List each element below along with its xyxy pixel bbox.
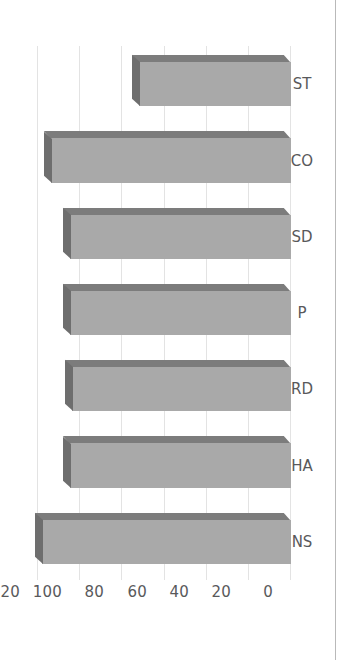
bar-ha [38, 443, 291, 487]
category-label-p: P [264, 304, 340, 322]
category-label-ns: NS [264, 533, 340, 551]
bar-top-face [63, 436, 71, 487]
bar-top-face [63, 284, 71, 335]
bar-front-face [70, 443, 291, 487]
value-tick-label: 40 [169, 583, 189, 601]
bar-top-face [35, 513, 43, 564]
bar-front-face [42, 520, 291, 564]
bar-top-face [44, 131, 52, 182]
category-label-ha: HA [264, 457, 340, 475]
bar-front-face [72, 367, 291, 411]
bar-top-face [132, 55, 140, 106]
value-tick-label: 120 [0, 583, 20, 601]
bar-st [38, 62, 291, 106]
bar-ns [38, 520, 291, 564]
plot-area [38, 46, 291, 580]
bar-co [38, 138, 291, 182]
value-tick-label: 60 [127, 583, 147, 601]
value-tick-label: 100 [33, 583, 62, 601]
bar-front-face [70, 215, 291, 259]
bar-top-face [63, 207, 71, 258]
bar-series [38, 46, 291, 580]
category-label-co: CO [264, 151, 340, 169]
category-label-st: ST [264, 75, 340, 93]
bar-rd [38, 367, 291, 411]
value-tick-label: 0 [263, 583, 273, 601]
value-axis-tick-labels: 020406080100120 [38, 584, 291, 640]
chart-stage: 020406080100120 NSHARDPSDCOST [22, 20, 322, 640]
bar-front-face [70, 291, 291, 335]
category-axis-tick-labels: NSHARDPSDCOST [291, 46, 321, 580]
category-label-sd: SD [264, 228, 340, 246]
bar-front-face [51, 138, 291, 182]
value-tick-label: 20 [211, 583, 231, 601]
category-label-rd: RD [264, 380, 340, 398]
figure-right-border [335, 0, 336, 660]
bar-top-face [65, 360, 73, 411]
value-tick-label: 80 [85, 583, 105, 601]
bar-p [38, 291, 291, 335]
bar-sd [38, 215, 291, 259]
